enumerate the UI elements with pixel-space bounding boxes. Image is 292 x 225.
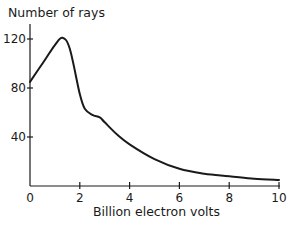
x-tick-label: 10 (271, 191, 286, 205)
y-tick-label: 80 (11, 81, 26, 95)
x-tick-label: 8 (225, 191, 233, 205)
x-tick-label: 0 (26, 191, 34, 205)
y-tick-label: 40 (11, 130, 26, 144)
x-tick-label: 6 (176, 191, 184, 205)
x-tick-label: 2 (76, 191, 84, 205)
chart: Number of rays 4080120 0246810 Billion e… (0, 0, 292, 225)
data-curve (30, 38, 279, 180)
x-tick-label: 4 (126, 191, 134, 205)
y-ticks: 4080120 (3, 32, 33, 144)
y-tick-label: 120 (3, 32, 26, 46)
x-axis-title: Billion electron volts (93, 204, 220, 219)
y-axis-title: Number of rays (8, 5, 105, 20)
